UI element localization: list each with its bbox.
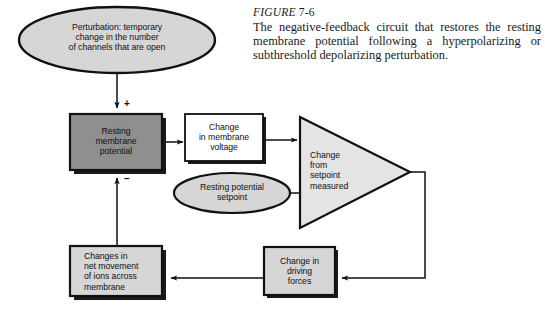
figure-7-6: FIGURE 7-6 The negative-feedback circuit… [0, 0, 545, 311]
node-changes-in-net-movement [70, 246, 162, 296]
node-resting-membrane-potential [70, 114, 162, 170]
feedback-circuit-diagram [0, 0, 545, 311]
plus-sign: + [124, 99, 130, 109]
node-resting-potential-setpoint [174, 173, 290, 213]
node-perturbation [19, 7, 215, 73]
node-change-from-setpoint-measured [300, 117, 410, 228]
minus-sign: – [124, 174, 130, 184]
node-change-in-driving-forces [264, 247, 335, 295]
node-change-in-membrane-voltage [185, 114, 263, 161]
